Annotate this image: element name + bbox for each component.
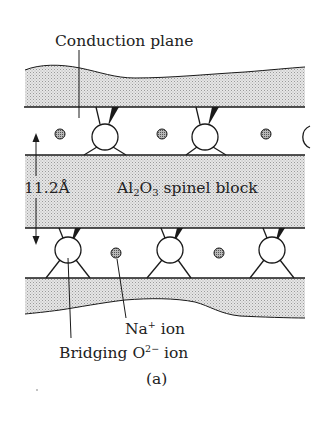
top-spinel-band (24, 65, 305, 107)
top-na-ions (55, 129, 271, 139)
bottom-bridging-o-ions (46, 228, 294, 278)
na-ion (111, 248, 121, 258)
bottom-spinel-band (25, 278, 305, 318)
bridging-o-ion-label: Bridging O2− ion (59, 343, 188, 362)
na-ion (214, 248, 224, 258)
bridging-o-ion (186, 107, 226, 155)
bridging-o-ion (250, 228, 294, 278)
spacing-label: 11.2Å (24, 179, 71, 197)
bridging-o-ion (84, 107, 126, 155)
conduction-plane-label: Conduction plane (55, 32, 193, 50)
bridging-o-ion-partial (303, 126, 310, 148)
panel-label: (a) (146, 370, 167, 388)
na-ion (55, 129, 65, 139)
beta-alumina-structure-diagram: Conduction plane 11.2Å Al2O3 spinel bloc… (0, 0, 319, 432)
bridging-o-ion (147, 228, 191, 278)
top-bridging-o-ions (84, 107, 310, 155)
na-ion (157, 129, 167, 139)
na-ion-label: Na+ ion (125, 319, 185, 338)
na-ion (261, 129, 271, 139)
speck (36, 389, 38, 391)
